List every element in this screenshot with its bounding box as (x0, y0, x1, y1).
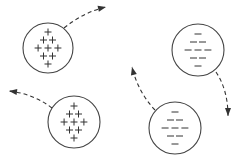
sphere-negative-D (131, 67, 201, 154)
sphere-positive-C (9, 89, 100, 148)
sphere-positive-A (23, 6, 106, 73)
arrowhead-icon (98, 6, 106, 12)
charged-spheres-diagram (0, 0, 235, 156)
arrowhead-icon (9, 89, 17, 95)
arrowhead-icon (225, 108, 231, 116)
arrowhead-icon (131, 67, 137, 75)
diagram-canvas (0, 0, 235, 156)
